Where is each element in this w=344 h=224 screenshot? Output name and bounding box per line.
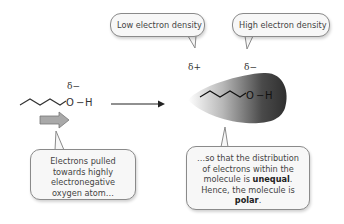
oxygen-atom: O — [66, 97, 74, 108]
hydrogen-atom: H — [85, 97, 93, 108]
right-callout: …so that the distribution of electrons w… — [186, 146, 310, 210]
oxygen-atom: O — [246, 90, 254, 101]
block-arrow-icon — [40, 112, 69, 128]
emphasis-unequal: unequal — [253, 174, 290, 184]
bond-label: − — [256, 90, 264, 101]
emphasis-polar: polar — [235, 195, 259, 205]
bubble-label: Low electron density — [117, 20, 202, 30]
left-callout: Electrons pulled towards highly electron… — [30, 149, 136, 200]
hydrogen-atom: H — [265, 90, 273, 101]
partial-negative-label: δ− — [244, 62, 257, 72]
bubble-label: High electron density — [239, 20, 327, 30]
bond-label: − — [76, 97, 84, 108]
reaction-arrow-icon — [111, 101, 165, 108]
callout-text: . — [259, 195, 262, 205]
bubble-tail — [245, 36, 253, 49]
partial-negative-label: δ− — [67, 81, 80, 91]
bubble-tail — [188, 36, 196, 48]
callout-tail — [55, 131, 64, 150]
callout-tail — [221, 127, 228, 147]
callout-text: Electrons pulled towards highly electron… — [50, 156, 116, 198]
high-electron-density-bubble: High electron density — [232, 13, 330, 37]
left-carbon-chain — [20, 99, 66, 105]
partial-positive-label: δ+ — [188, 62, 201, 72]
low-electron-density-bubble: Low electron density — [110, 13, 205, 37]
